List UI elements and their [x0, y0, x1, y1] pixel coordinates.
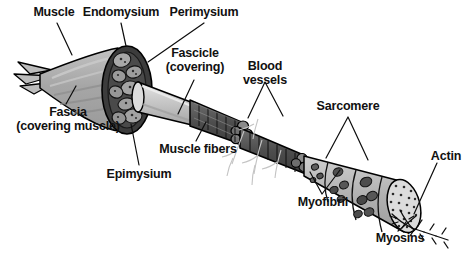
label-actin: Actin [428, 150, 464, 164]
label-fascicle: Fascicle (covering) [160, 47, 230, 74]
label-fascia: Fascia (covering muscle) [6, 106, 130, 133]
label-sarcomere: Sarcomere [314, 100, 382, 114]
label-myofibril: Myofibril [292, 196, 354, 210]
fiber-segment [240, 128, 309, 174]
label-myosins: Myosins [373, 232, 427, 246]
label-perimysium: Perimysium [166, 6, 242, 20]
label-epimysium: Epimysium [104, 168, 174, 182]
muscle-anatomy-diagram: Muscle Endomysium Perimysium Fascicle (c… [0, 0, 471, 265]
label-muscle-fibers: Muscle fibers [155, 143, 241, 157]
label-muscle: Muscle [28, 6, 80, 20]
label-blood-vessels: Blood vessels [239, 60, 291, 87]
label-endomysium: Endomysium [82, 6, 160, 20]
